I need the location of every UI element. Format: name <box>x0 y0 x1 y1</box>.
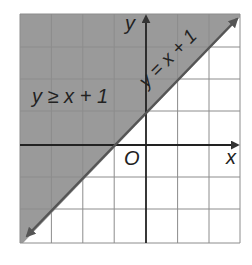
x-axis-label: x <box>226 146 236 169</box>
origin-label: O <box>124 147 140 170</box>
y-axis-label: y <box>125 12 135 35</box>
inequality-label: y ≥ x + 1 <box>32 85 108 108</box>
graph-canvas <box>0 0 252 265</box>
